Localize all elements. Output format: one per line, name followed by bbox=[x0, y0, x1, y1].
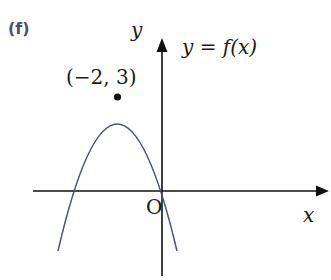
part-label: (f) bbox=[8, 19, 30, 38]
x-axis-arrow-icon bbox=[316, 186, 329, 197]
y-axis-arrow-icon bbox=[157, 38, 168, 52]
parabola-curve bbox=[58, 124, 177, 251]
origin-label: O bbox=[146, 195, 162, 219]
maximum-point bbox=[114, 93, 121, 100]
x-axis-label: x bbox=[303, 203, 314, 227]
curve-equation-label: y = f(x) bbox=[182, 35, 257, 59]
maximum-point-label: (−2, 3) bbox=[66, 65, 137, 89]
graph-canvas bbox=[0, 0, 331, 280]
y-axis-label: y bbox=[131, 18, 142, 42]
